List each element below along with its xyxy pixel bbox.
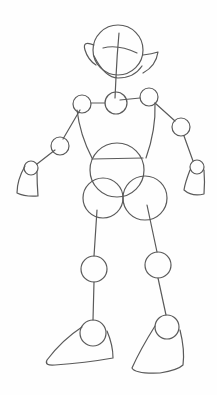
elbow-right bbox=[172, 118, 190, 136]
ear-right bbox=[143, 52, 158, 73]
head bbox=[93, 25, 143, 78]
wrist-left bbox=[24, 161, 38, 175]
hand-left bbox=[17, 166, 38, 196]
sketch-canvas bbox=[0, 0, 217, 395]
hip-right bbox=[123, 176, 167, 220]
torso bbox=[90, 143, 144, 197]
neck-joint bbox=[105, 92, 127, 114]
ankle-right bbox=[155, 315, 179, 339]
knee-right bbox=[145, 252, 171, 278]
figure-sketch bbox=[0, 0, 217, 395]
hip-left bbox=[83, 178, 123, 218]
neck-line bbox=[115, 77, 116, 98]
shoulder-left bbox=[73, 95, 91, 113]
wrist-right bbox=[190, 160, 204, 174]
foot-right bbox=[132, 326, 184, 373]
ear-left bbox=[84, 43, 96, 65]
knee-left bbox=[81, 256, 107, 282]
ankle-left bbox=[80, 320, 106, 346]
elbow-left bbox=[51, 137, 69, 155]
